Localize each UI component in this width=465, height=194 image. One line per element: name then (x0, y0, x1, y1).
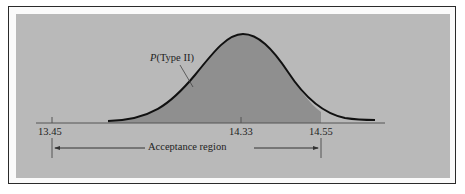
type-ii-shaded-area (108, 34, 321, 123)
acceptance-region-label: Acceptance region (148, 141, 226, 152)
type-ii-label: P(Type II) (150, 52, 194, 63)
arrowhead-right-icon (313, 146, 319, 150)
tick-label-14-55: 14.55 (309, 126, 333, 137)
tick-label-13-45: 13.45 (38, 126, 62, 137)
normal-curve-diagram (0, 0, 465, 194)
tick-label-14-33: 14.33 (229, 126, 253, 137)
arrowhead-left-icon (54, 146, 60, 150)
